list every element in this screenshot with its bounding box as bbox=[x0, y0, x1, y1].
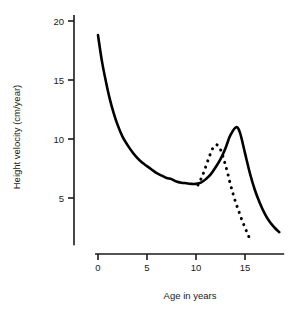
x-axis-tick-labels: 051015 bbox=[95, 262, 250, 273]
x-axis-ticks bbox=[98, 254, 245, 260]
x-axis: 051015 bbox=[95, 254, 284, 273]
y-axis: 5101520 bbox=[53, 15, 74, 245]
x-axis-tick-label: 5 bbox=[144, 262, 149, 273]
y-axis-tick-labels: 5101520 bbox=[53, 16, 64, 204]
y-axis-tick-label: 20 bbox=[53, 16, 64, 27]
series-line-early-maturer bbox=[198, 145, 251, 241]
y-axis-tick-label: 10 bbox=[53, 134, 64, 145]
chart-canvas: 5101520 051015 Age in years Height veloc… bbox=[0, 0, 294, 311]
plot-area bbox=[98, 35, 279, 241]
y-axis-ticks bbox=[68, 21, 74, 198]
series-line-average-maturer bbox=[98, 35, 279, 232]
x-axis-title: Age in years bbox=[164, 290, 217, 301]
y-axis-tick-label: 5 bbox=[59, 193, 64, 204]
height-velocity-chart: 5101520 051015 Age in years Height veloc… bbox=[0, 0, 294, 311]
y-axis-tick-label: 15 bbox=[53, 75, 64, 86]
x-axis-tick-label: 0 bbox=[95, 262, 100, 273]
x-axis-tick-label: 15 bbox=[240, 262, 251, 273]
x-axis-tick-label: 10 bbox=[191, 262, 202, 273]
y-axis-title: Height velocity (cm/year) bbox=[11, 85, 22, 190]
